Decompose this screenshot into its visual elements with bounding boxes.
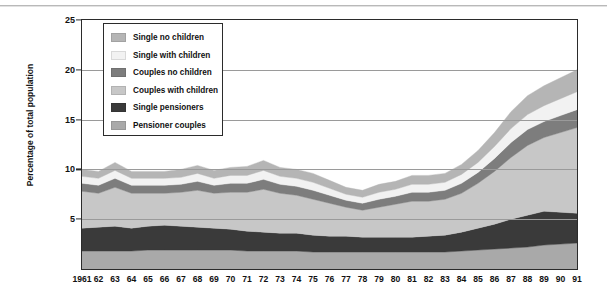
y-tick-mark — [76, 19, 81, 20]
x-tick-label: 83 — [440, 274, 450, 284]
legend-swatch-couples-no-children — [111, 68, 126, 77]
x-tick-label: 78 — [358, 274, 368, 284]
legend-swatch-couples-with-children — [111, 86, 126, 95]
legend-swatch-pensioner-couples — [111, 121, 126, 130]
legend-label: Couples no children — [133, 68, 212, 77]
x-tick-label: 87 — [506, 274, 516, 284]
chart-legend: Single no childrenSingle with childrenCo… — [103, 23, 223, 136]
x-tick-label: 79 — [374, 274, 384, 284]
x-tick-label: 65 — [143, 274, 153, 284]
x-tick-label: 73 — [275, 274, 285, 284]
x-tick-label: 91 — [572, 274, 582, 284]
x-tick-label: 81 — [407, 274, 417, 284]
y-tick-mark — [76, 219, 81, 220]
x-tick-label: 64 — [127, 274, 137, 284]
y-tick-label: 5 — [55, 214, 75, 224]
x-tick-label: 66 — [160, 274, 170, 284]
x-tick-label: 67 — [176, 274, 186, 284]
legend-swatch-single-with-children — [111, 51, 126, 60]
y-tick-label: 20 — [55, 65, 75, 75]
x-tick-label: 77 — [341, 274, 351, 284]
x-tick-label: 72 — [259, 274, 269, 284]
stacked-area-chart-figure: Percentage of total population 510152025… — [0, 0, 607, 297]
x-tick-label: 68 — [193, 274, 203, 284]
x-tick-label: 70 — [226, 274, 236, 284]
legend-label: Single with children — [133, 51, 210, 60]
y-tick-label: 10 — [55, 164, 75, 174]
x-tick-label: 80 — [391, 274, 401, 284]
y-tick-label: 25 — [55, 15, 75, 25]
x-tick-label: 85 — [473, 274, 483, 284]
x-tick-label: 1961 — [72, 274, 91, 284]
legend-item: Couples no children — [104, 64, 222, 82]
x-tick-label: 75 — [308, 274, 318, 284]
x-tick-label: 74 — [292, 274, 302, 284]
legend-item: Couples with children — [104, 82, 222, 100]
legend-label: Couples with children — [133, 86, 218, 95]
legend-label: Single pensioners — [133, 103, 204, 112]
legend-item: Single no children — [104, 29, 222, 47]
x-tick-label: 86 — [490, 274, 500, 284]
legend-swatch-single-pensioners — [111, 103, 126, 112]
y-tick-mark — [76, 69, 81, 70]
x-tick-label: 89 — [539, 274, 549, 284]
legend-item: Single pensioners — [104, 99, 222, 117]
gridline — [82, 169, 577, 170]
x-tick-label: 63 — [110, 274, 120, 284]
x-tick-label: 69 — [209, 274, 219, 284]
y-axis-title: Percentage of total population — [25, 15, 35, 235]
y-tick-label: 15 — [55, 115, 75, 125]
gridline — [82, 219, 577, 220]
legend-item: Single with children — [104, 47, 222, 65]
x-tick-label: 76 — [325, 274, 335, 284]
legend-item: Pensioner couples — [104, 117, 222, 135]
x-tick-label: 84 — [457, 274, 467, 284]
legend-label: Single no children — [133, 33, 204, 42]
x-tick-label: 82 — [424, 274, 434, 284]
legend-swatch-single-no-children — [111, 33, 126, 42]
x-tick-label: 88 — [523, 274, 533, 284]
x-tick-label: 71 — [242, 274, 252, 284]
y-tick-mark — [76, 119, 81, 120]
x-axis-ticks: 1961626364656667686970717273747576777879… — [81, 274, 578, 292]
legend-label: Pensioner couples — [133, 121, 206, 130]
y-tick-mark — [76, 169, 81, 170]
x-tick-label: 90 — [556, 274, 566, 284]
x-tick-label: 62 — [94, 274, 104, 284]
